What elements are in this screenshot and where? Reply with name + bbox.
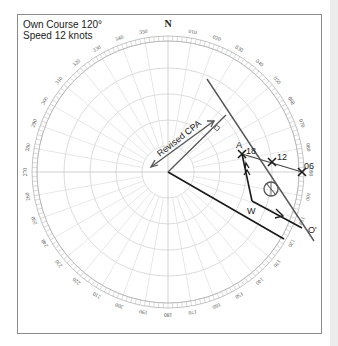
bearing-label: 180 [164, 312, 173, 318]
north-label: N [164, 18, 172, 29]
point-06-label: 06 [304, 161, 314, 171]
bearing-label: 270 [22, 168, 28, 177]
bearing-label: 070 [298, 118, 307, 128]
bearing-label: 140 [254, 276, 264, 286]
bearing-label: 310 [54, 75, 64, 85]
bearing-label: 030 [234, 44, 244, 53]
bearing-label: 060 [287, 96, 296, 106]
vector-arrow-icon [245, 163, 249, 168]
bearing-label: 220 [71, 276, 81, 286]
radar-plot: 0100200300400500600700800901001101201301… [0, 0, 338, 346]
bearing-label: 120 [287, 238, 296, 248]
bearing-label: 020 [212, 34, 222, 43]
bearing-label: 210 [91, 291, 101, 300]
bearing-label: 200 [114, 302, 124, 311]
bearing-label: 160 [212, 302, 222, 311]
cpa-arrowhead-start-icon [151, 160, 158, 167]
bearing-label: 330 [92, 44, 102, 53]
bearing-label: 130 [272, 259, 282, 269]
w-to-a-vector [242, 154, 252, 201]
bearing-label: 240 [40, 238, 49, 248]
point-12-label: 12 [277, 152, 287, 162]
point-w-label: W [247, 206, 256, 216]
bearing-label: 170 [188, 309, 197, 316]
bearing-label: 050 [272, 75, 282, 85]
bearing-label: 150 [234, 291, 244, 300]
bearing-label: 040 [255, 58, 265, 68]
bearing-label: 100 [305, 192, 312, 201]
bearing-label: 230 [54, 258, 64, 268]
point-o-prime-label: O' [308, 225, 317, 235]
point-a-time: 18 [246, 146, 256, 156]
bearing-label: 080 [305, 143, 312, 152]
bearing-label: 010 [188, 28, 197, 35]
bearing-label: 320 [71, 58, 81, 68]
bearing-label: 250 [30, 216, 39, 226]
bearing-label: 190 [138, 309, 147, 316]
bearing-label: 300 [40, 95, 49, 105]
bearing-label: 350 [139, 28, 148, 35]
point-a-label: A [236, 140, 242, 150]
bearing-label: 290 [30, 118, 39, 128]
bearing-label: 280 [24, 142, 31, 151]
bearing-label: 340 [114, 34, 124, 43]
bearing-label: 260 [24, 192, 31, 201]
